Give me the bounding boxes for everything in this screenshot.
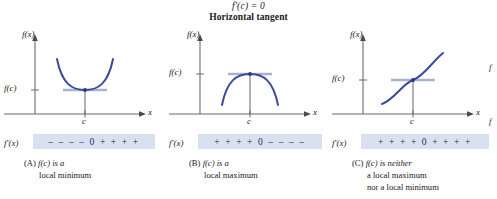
caption-a: (A) f(c) is a local minimum xyxy=(24,158,91,182)
panel-b: f(x) f(c) x c f′(x) + + + + 0 – – – – (B… xyxy=(167,26,332,199)
panel-b-plot xyxy=(167,26,332,126)
deriv-label-c: f′(x) xyxy=(332,138,346,148)
y-axis-label-a: f(x) xyxy=(22,29,35,39)
sign-row-a: f′(x) – – – – 0 + + + + xyxy=(2,134,167,160)
caption-c-line2: a local maximum xyxy=(352,170,439,182)
y-value-label-a: f(c) xyxy=(4,83,17,93)
header-equation: f′(c) = 0 xyxy=(0,1,497,12)
x-tick-label-c: c xyxy=(410,116,414,126)
y-value-label-c: f(c) xyxy=(332,73,345,83)
panel-c: f(x) f(c) x c f′(x) + + + + 0 + + + + (C… xyxy=(330,26,495,199)
sign-band-c: + + + + 0 + + + + xyxy=(361,134,489,149)
y-axis-a xyxy=(32,34,38,114)
caption-c: (C) f(c) is neither a local maximum nor … xyxy=(352,158,439,194)
deriv-label-b: f′(x) xyxy=(169,138,183,148)
x-tick-label-a: c xyxy=(82,116,86,126)
caption-c-line3: nor a local minimum xyxy=(352,182,439,194)
x-axis-label-b: x xyxy=(313,107,317,117)
figure-root: f′(c) = 0 Horizontal tangent xyxy=(0,0,497,199)
caption-a-label: (A) xyxy=(24,158,36,168)
edge-fragment-1: f xyxy=(489,62,492,72)
caption-b: (B) f(c) is a local maximum xyxy=(189,158,258,182)
caption-a-line2: local minimum xyxy=(24,170,91,182)
x-tick-label-b: c xyxy=(247,116,251,126)
caption-a-line1: f(c) is a xyxy=(38,158,64,168)
figure-header: f′(c) = 0 Horizontal tangent xyxy=(0,1,497,22)
panel-c-plot xyxy=(330,26,495,126)
caption-c-line1: f(c) is neither xyxy=(366,158,412,168)
y-axis-c xyxy=(360,34,366,114)
x-axis-c xyxy=(332,111,474,117)
caption-b-line1: f(c) is a xyxy=(203,158,229,168)
sign-row-b: f′(x) + + + + 0 – – – – xyxy=(167,134,332,160)
x-axis-label-c: x xyxy=(476,107,480,117)
y-value-label-b: f(c) xyxy=(169,67,182,77)
caption-c-label: (C) xyxy=(352,158,363,168)
edge-fragment-2: f xyxy=(489,116,492,126)
panel-a: f(x) f(c) x c f′(x) – – – – 0 + + + + (A… xyxy=(2,26,167,199)
y-axis-label-c: f(x) xyxy=(350,29,363,39)
caption-b-label: (B) xyxy=(189,158,200,168)
x-axis-a xyxy=(4,111,146,117)
sign-band-a: – – – – 0 + + + + xyxy=(33,134,155,149)
x-axis-label-a: x xyxy=(148,107,152,117)
header-subtitle: Horizontal tangent xyxy=(0,12,497,23)
panel-a-plot xyxy=(2,26,167,126)
sign-band-b: + + + + 0 – – – – xyxy=(198,134,322,149)
sign-row-c: f′(x) + + + + 0 + + + + xyxy=(330,134,495,160)
y-axis-label-b: f(x) xyxy=(187,29,200,39)
deriv-label-a: f′(x) xyxy=(4,138,18,148)
x-axis-b xyxy=(169,111,311,117)
caption-b-line2: local maximum xyxy=(189,170,258,182)
